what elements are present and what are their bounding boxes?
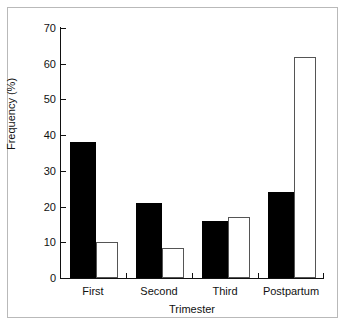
y-tick-0	[61, 278, 66, 279]
bar-postpartum-filled	[268, 192, 294, 278]
plot-container: 0 10 20 30 40 50 60 70	[0, 0, 345, 332]
bar-first-filled	[70, 142, 96, 278]
x-tick-label-first: First	[60, 285, 126, 297]
x-axis-title: Trimester	[60, 303, 324, 315]
chart-figure: 0 10 20 30 40 50 60 70	[0, 0, 345, 332]
x-tick-label-third: Third	[192, 285, 258, 297]
x-axis-line	[60, 278, 324, 279]
bar-third-filled	[202, 221, 228, 278]
bar-postpartum-open	[294, 57, 316, 278]
x-tick-label-second: Second	[126, 285, 192, 297]
bar-second-filled	[136, 203, 162, 278]
bar-first-open	[96, 242, 118, 278]
bar-third-open	[228, 217, 250, 278]
bars-layer	[0, 28, 345, 278]
bar-second-open	[162, 248, 184, 278]
x-tick-label-postpartum: Postpartum	[258, 285, 324, 297]
